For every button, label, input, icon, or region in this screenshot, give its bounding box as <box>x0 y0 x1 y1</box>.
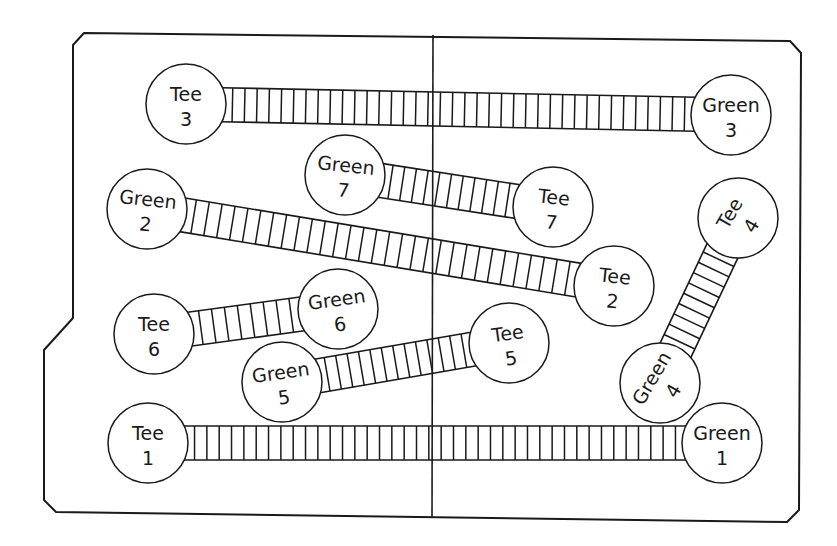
fairway-rung <box>689 283 720 298</box>
fairway-rung <box>244 88 245 122</box>
fairway-rung <box>684 293 715 308</box>
fairway-rung <box>358 352 364 386</box>
fairway-rung <box>635 96 636 130</box>
fairway-rung <box>336 356 342 390</box>
fairway-rung <box>648 96 649 130</box>
fairway-rail <box>178 231 577 297</box>
tee-number: 3 <box>180 108 192 130</box>
fairway-rung <box>307 219 313 253</box>
fairway-rung <box>324 357 330 391</box>
fairway-rung <box>476 93 477 127</box>
tee-label: Tee <box>137 313 170 335</box>
fairway-rung <box>224 307 229 341</box>
tee-label: Tee <box>597 263 632 288</box>
fairway-rung <box>611 96 612 130</box>
fairway-rung <box>450 336 456 370</box>
green-1: Green1 <box>682 403 762 483</box>
fairway-rung <box>461 334 467 368</box>
fairway-rung <box>487 249 493 283</box>
fairway-rung <box>513 253 519 287</box>
fairway-rung <box>693 273 724 288</box>
green-number: 7 <box>336 178 350 201</box>
fairway-rung <box>482 180 487 214</box>
fairway-rung <box>415 342 421 376</box>
fairway-rung <box>281 215 287 249</box>
fairway-rung <box>268 213 274 247</box>
fairway-rung <box>237 306 242 340</box>
fairway-rung <box>513 94 514 128</box>
fairway-rung <box>586 95 587 129</box>
green-2: Green2 <box>107 169 187 249</box>
tee-2: Tee2 <box>574 246 654 326</box>
tee-label: Tee <box>169 83 202 105</box>
fairway-hole-7 <box>376 163 522 218</box>
fairway-rung <box>474 247 480 281</box>
fairway-rung <box>461 245 467 279</box>
golf-course-diagram: Golf course board with seven holes, each… <box>0 0 837 546</box>
fairway-rung <box>525 94 526 128</box>
fairway-rung <box>538 94 539 128</box>
fairway-rung <box>293 89 294 123</box>
fairway-rung <box>294 217 300 251</box>
fairway-rung <box>342 90 343 124</box>
fairway-rung <box>269 89 270 123</box>
tee-number: 6 <box>148 338 160 360</box>
fairway-rung <box>381 348 387 382</box>
fairway-hole-6 <box>186 297 307 346</box>
fairway-rail <box>186 297 302 313</box>
fairway-rung <box>354 90 355 124</box>
fairway-rung <box>500 251 506 285</box>
green-number: 1 <box>716 447 728 469</box>
fairway-hole-4 <box>659 242 738 360</box>
fairway-rung <box>623 96 624 130</box>
fairway-rung <box>397 234 403 268</box>
fairway-rung <box>526 255 532 289</box>
fairway-rung <box>250 304 255 338</box>
fairway-rung <box>257 88 258 122</box>
fairway-rung <box>347 354 353 388</box>
fairway-rung <box>204 202 210 236</box>
fairway-rung <box>415 92 416 126</box>
fairway-rung <box>371 230 377 264</box>
green-5: Green5 <box>242 342 322 422</box>
tee-label: Tee <box>489 320 525 346</box>
green-label: Green <box>702 94 760 116</box>
fairway-rung <box>333 223 339 257</box>
fairway-rung <box>255 211 261 245</box>
fairway-rung <box>458 176 463 210</box>
fairway-rung <box>217 204 223 238</box>
fairway-rung <box>391 91 392 125</box>
fairway-rung <box>660 97 661 131</box>
fairway-rung <box>672 97 673 131</box>
fairway-rail <box>221 88 698 98</box>
fairway-rung <box>489 93 490 127</box>
fairway-rung <box>539 257 545 291</box>
fairway-rung <box>230 206 236 240</box>
green-4: Green4 <box>620 343 700 423</box>
fairway-rung <box>388 165 393 199</box>
fairway-rung <box>562 95 563 129</box>
tee-4: Tee4 <box>698 178 778 258</box>
fairway-rung <box>423 238 429 272</box>
green-3: Green3 <box>691 75 771 155</box>
fairway-rung <box>263 302 268 336</box>
fairway-rung <box>330 90 331 124</box>
fairway-rung <box>320 221 326 255</box>
fairway-rung <box>679 304 710 319</box>
fairway-rung <box>552 259 558 293</box>
fairway-rung <box>550 94 551 128</box>
fairway-rung <box>669 324 700 339</box>
fairway-rung <box>493 181 498 215</box>
fairway-rung <box>440 92 441 126</box>
fairway-rung <box>446 174 451 208</box>
tee-1: Tee1 <box>108 403 188 483</box>
fairway-rung <box>289 299 294 333</box>
fairway-rail <box>220 122 697 132</box>
fairway-rung <box>403 91 404 125</box>
tee-7: Tee7 <box>513 167 593 247</box>
fairway-rung <box>698 262 729 277</box>
green-6: Green6 <box>298 269 378 349</box>
fairway-rung <box>211 309 216 343</box>
fairway-rung <box>565 262 571 296</box>
fairway-hole-1 <box>182 426 688 460</box>
